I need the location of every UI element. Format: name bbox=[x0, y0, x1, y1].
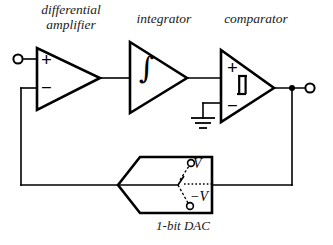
label-differential-amplifier-line1: differential bbox=[22, 3, 120, 18]
diffamp-plus-input-symbol: + bbox=[41, 49, 52, 71]
integral-symbol: ∫ bbox=[139, 50, 155, 85]
output-terminal[interactable] bbox=[305, 83, 314, 92]
circuit-schematic-svg bbox=[0, 0, 333, 245]
input-terminal[interactable] bbox=[13, 54, 22, 63]
comparator-minus-input-symbol: − bbox=[227, 95, 238, 117]
label-1-bit-dac: 1-bit DAC bbox=[135, 219, 231, 233]
label-comparator: comparator bbox=[210, 12, 302, 27]
comparator-plus-input-symbol: + bbox=[227, 57, 238, 79]
label-integrator: integrator bbox=[126, 12, 202, 27]
v-positive-label: V bbox=[193, 156, 202, 172]
ground-symbol bbox=[191, 118, 215, 128]
diffamp-minus-input-symbol: − bbox=[41, 77, 52, 99]
circuit-diagram-canvas: differential amplifier integrator compar… bbox=[0, 0, 333, 245]
v-negative-label: −V bbox=[190, 189, 208, 205]
label-differential-amplifier: differential amplifier bbox=[22, 3, 120, 32]
label-differential-amplifier-line2: amplifier bbox=[22, 18, 120, 33]
output-junction-node bbox=[289, 85, 295, 91]
